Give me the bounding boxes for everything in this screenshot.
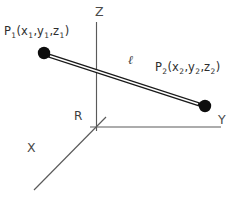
point-p1-label: P1(x1,y1,z1)	[4, 26, 69, 38]
point-p1-dot	[38, 47, 50, 59]
p1-name: P	[4, 24, 11, 38]
x-axis-label: X	[27, 142, 36, 155]
p2-coord-y-index: 2	[195, 67, 201, 76]
z-axis-label: Z	[95, 6, 104, 19]
p1-coord-x-index: 1	[28, 31, 34, 40]
p1-coord-y-index: 1	[44, 31, 50, 40]
p1-index: 1	[11, 31, 17, 40]
p2-coord-x-index: 2	[179, 67, 185, 76]
p1-coord-y: y	[37, 24, 44, 38]
origin-label: R	[74, 110, 82, 122]
segment-length-label: ℓ	[128, 54, 133, 66]
p1-close-paren: )	[65, 24, 70, 38]
p2-coord-x: x	[172, 60, 179, 74]
p2-index: 2	[162, 67, 168, 76]
p2-coord-y: y	[188, 60, 195, 74]
p1-coord-z-index: 1	[59, 31, 65, 40]
geometry-figure: Z Y X R P1(x1,y1,z1) P2(x2,y2,z2) ℓ	[0, 0, 244, 197]
x-axis-line	[34, 117, 106, 190]
p2-close-paren: )	[216, 60, 221, 74]
point-p2-dot	[199, 100, 211, 112]
point-p2-label: P2(x2,y2,z2)	[155, 62, 220, 74]
p1-coord-x: x	[21, 24, 28, 38]
p2-coord-z-index: 2	[210, 67, 216, 76]
y-axis-label: Y	[218, 114, 226, 127]
p2-name: P	[155, 60, 162, 74]
